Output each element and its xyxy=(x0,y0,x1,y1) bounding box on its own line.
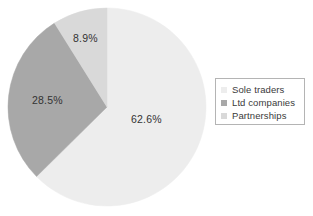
pie-label-partnerships: 8.9% xyxy=(73,32,98,44)
legend-swatch-sole-traders xyxy=(221,87,227,93)
legend-label-ltd-companies: Ltd companies xyxy=(232,97,295,108)
legend-item-partnerships[interactable]: Partnerships xyxy=(221,109,304,122)
pie-chart-figure: 62.6% 28.5% 8.9% Sole traders Ltd compan… xyxy=(0,0,313,216)
legend-label-partnerships: Partnerships xyxy=(232,110,287,121)
pie-label-sole-traders: 62.6% xyxy=(131,113,162,125)
legend-label-sole-traders: Sole traders xyxy=(232,84,284,95)
legend-swatch-ltd-companies xyxy=(221,100,227,106)
legend-swatch-partnerships xyxy=(221,113,227,119)
legend-item-sole-traders[interactable]: Sole traders xyxy=(221,83,304,96)
pie-label-ltd-companies: 28.5% xyxy=(32,94,63,106)
chart-legend: Sole traders Ltd companies Partnerships xyxy=(215,78,305,125)
pie-slices xyxy=(8,8,206,206)
legend-item-ltd-companies[interactable]: Ltd companies xyxy=(221,96,304,109)
